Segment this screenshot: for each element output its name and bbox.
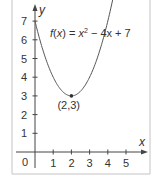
formula-eq: ) = bbox=[62, 27, 78, 39]
y-tick-label: 1 bbox=[21, 127, 27, 139]
parabola-curve bbox=[35, 0, 113, 96]
x-axis-arrow-icon bbox=[141, 150, 148, 155]
parabola-chart: 12345 1234567 x y 0 (2,3) f(x) = x2 − 4x… bbox=[0, 0, 154, 191]
x-tick-label: 5 bbox=[123, 157, 129, 169]
vertex-label: (2,3) bbox=[57, 99, 80, 111]
y-tick-label: 4 bbox=[21, 71, 27, 83]
y-tick-label: 3 bbox=[21, 90, 27, 102]
y-tick-label: 6 bbox=[21, 34, 27, 46]
x-tick-label: 1 bbox=[50, 157, 56, 169]
y-axis-label: y bbox=[38, 3, 46, 17]
vertex-point bbox=[70, 94, 74, 98]
y-tick-label: 5 bbox=[21, 53, 27, 65]
function-formula: f(x) = x2 − 4x + 7 bbox=[50, 27, 131, 39]
x-axis-label: x bbox=[138, 135, 146, 149]
x-tick-label: 3 bbox=[87, 157, 93, 169]
origin-label: 0 bbox=[22, 156, 28, 168]
y-tick-label: 7 bbox=[21, 15, 27, 27]
y-tick-label: 2 bbox=[21, 109, 27, 121]
x-tick-label: 4 bbox=[105, 157, 111, 169]
y-axis-arrow-icon bbox=[33, 4, 38, 11]
formula-rest: − 4x + 7 bbox=[88, 27, 131, 39]
x-tick-label: 2 bbox=[68, 157, 74, 169]
